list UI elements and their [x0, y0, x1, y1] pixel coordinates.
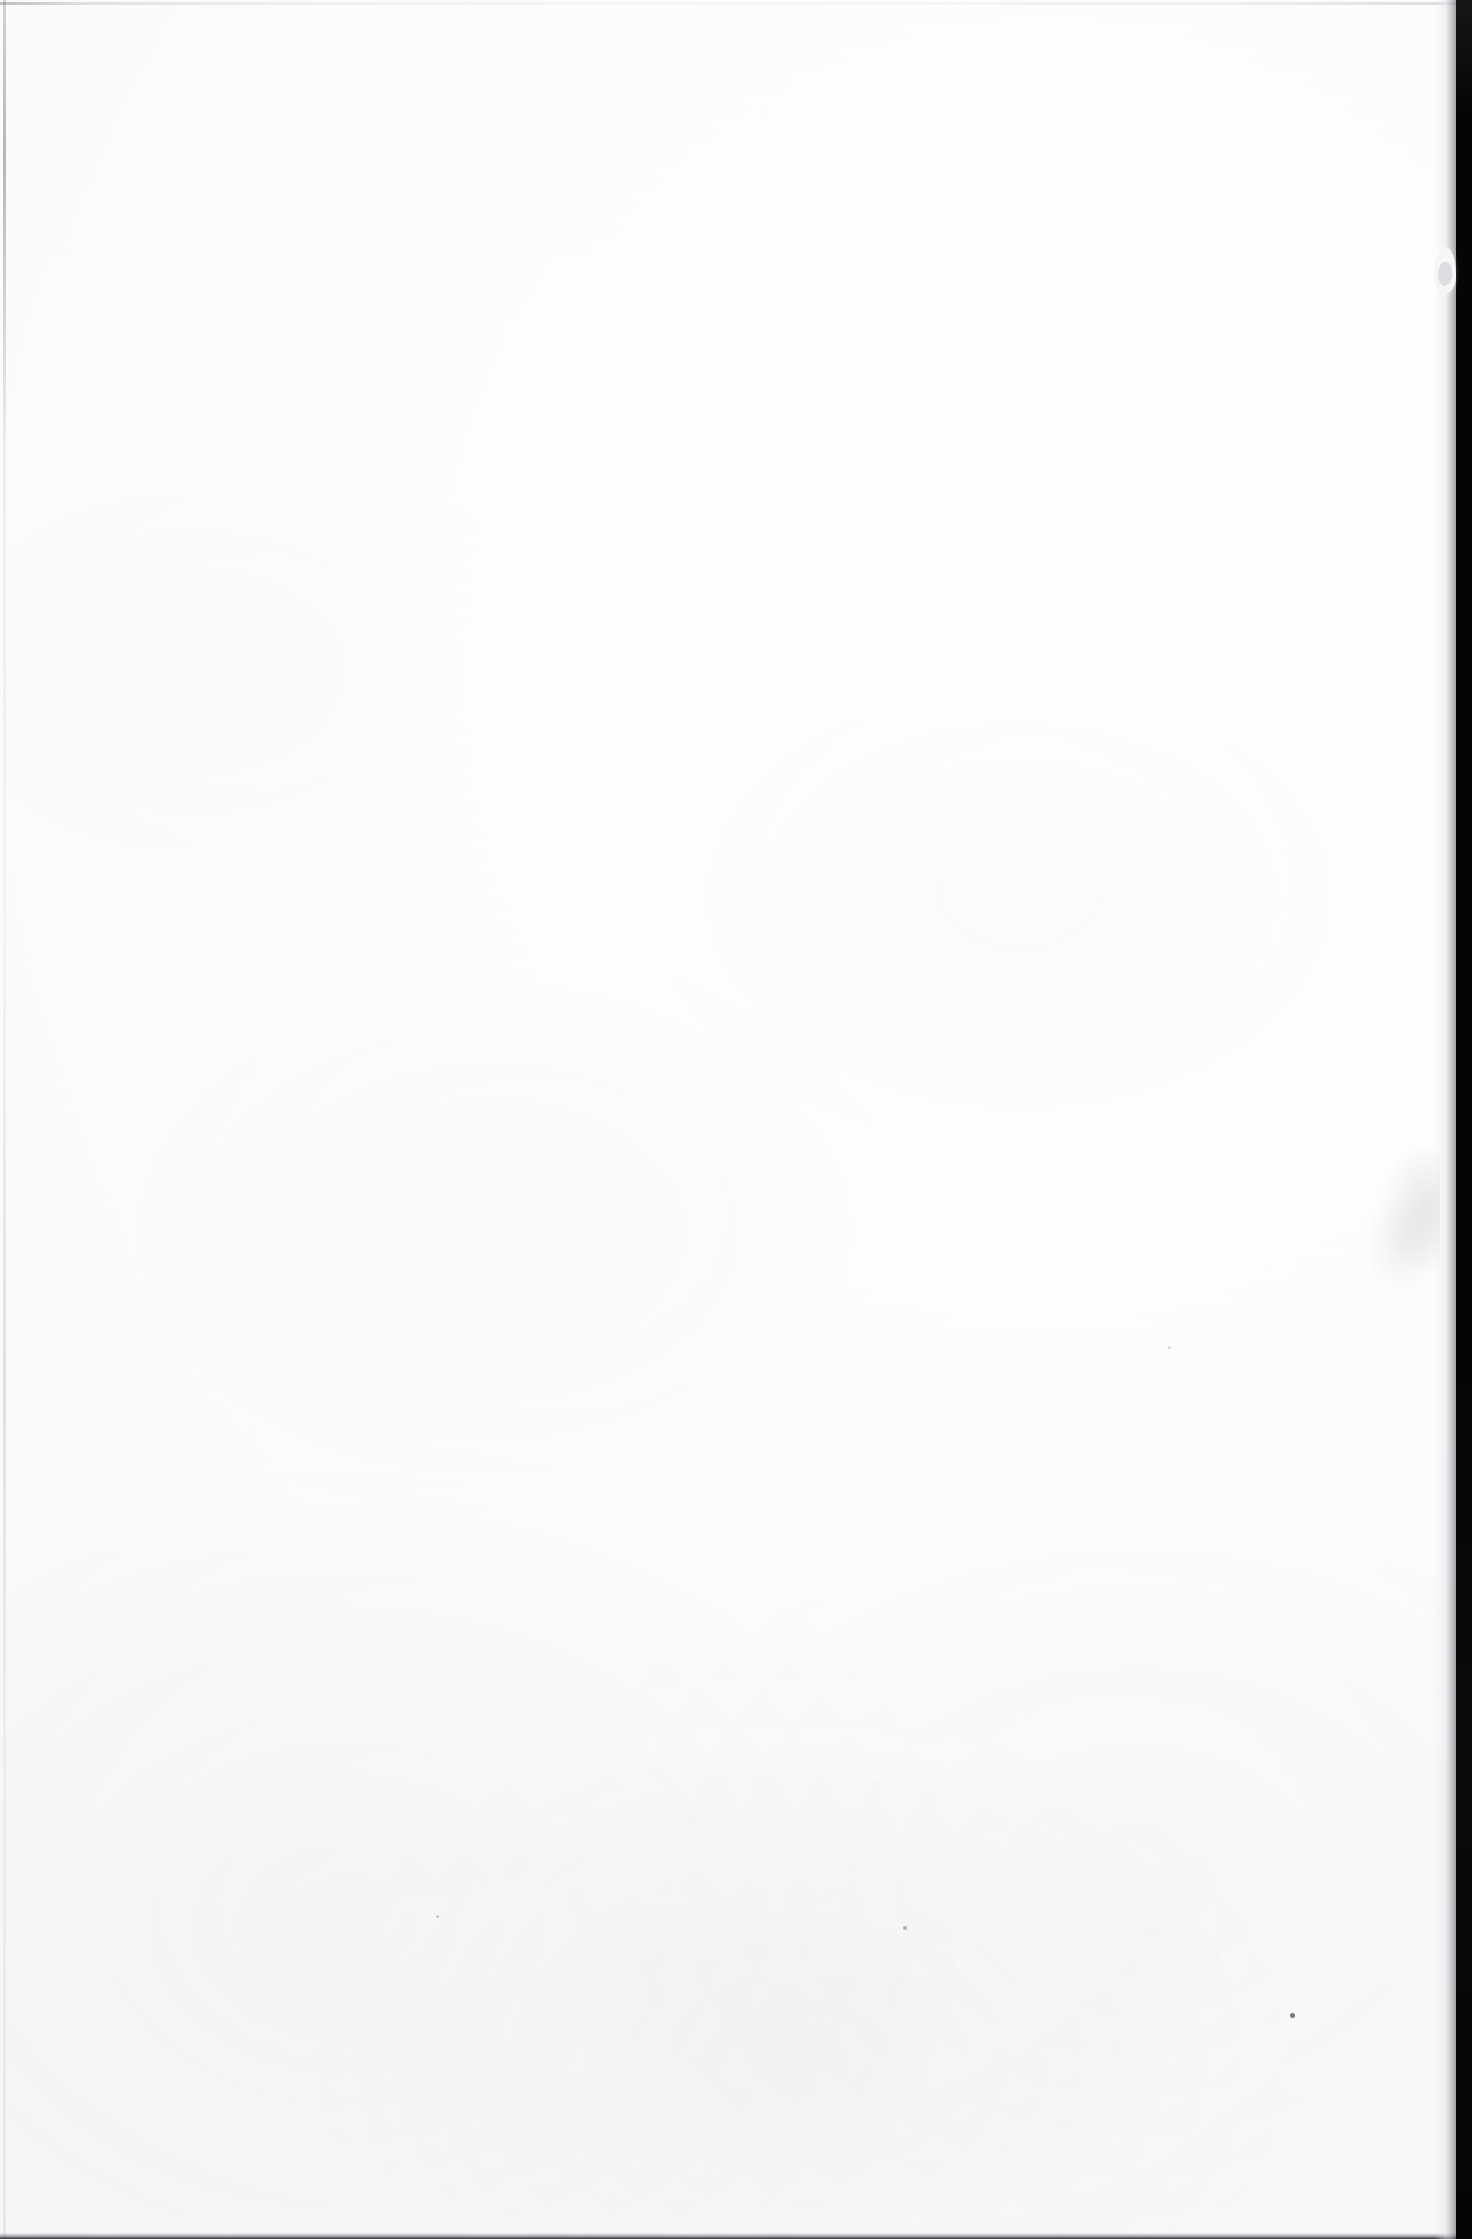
scanner-background-void: [1456, 0, 1472, 2239]
edge-shadow-smudge: [1344, 1140, 1440, 1290]
paper-tone-gradient: [0, 0, 1456, 2239]
dust-speck: [436, 1915, 439, 1918]
paper-grain-texture: [0, 0, 1456, 2239]
page-edge-top: [0, 2, 1456, 5]
verso-show-through: [0, 0, 1456, 2239]
dust-speck: [1168, 1346, 1171, 1349]
page-edge-left: [3, 0, 6, 2239]
paper-sheet: [0, 0, 1456, 2239]
dust-speck: [1290, 2013, 1295, 2018]
dust-speck: [903, 1926, 907, 1930]
scanned-page-canvas: [0, 0, 1472, 2239]
page-edge-bottom: [0, 2233, 1456, 2239]
